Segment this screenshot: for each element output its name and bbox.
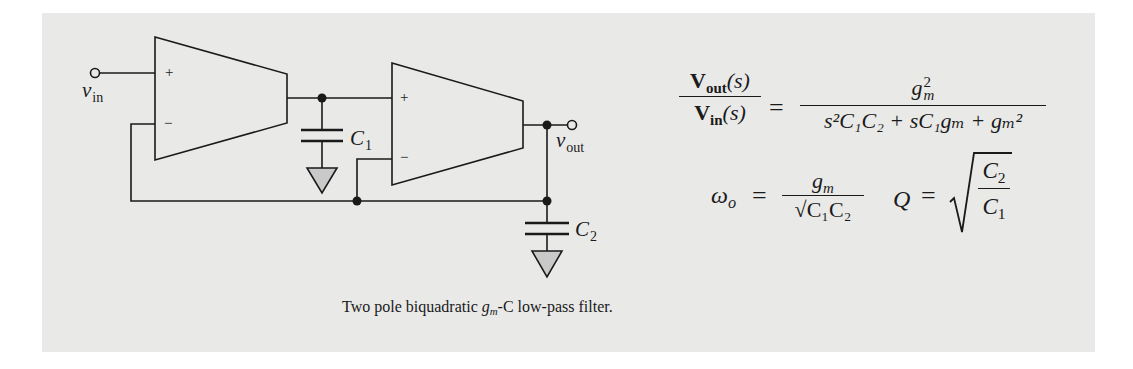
gm-sub: m bbox=[924, 89, 935, 102]
amplifier-1-icon bbox=[155, 37, 287, 160]
q-c2-symbol: C bbox=[982, 158, 997, 183]
q-c2-sub: 2 bbox=[998, 169, 1006, 186]
caption-gm-sub: m bbox=[490, 305, 498, 317]
vin-arg: (s) bbox=[723, 100, 746, 125]
transfer-rhs-fraction: g2m s²C₁C₂ + sC₁gₘ + gₘ² bbox=[800, 76, 1046, 132]
amp2-plus-sign: + bbox=[400, 90, 408, 105]
amp1-minus-sign: − bbox=[164, 116, 172, 131]
vout-V: V bbox=[690, 68, 706, 93]
omega-denominator: √C₁C₂ bbox=[795, 199, 852, 221]
input-terminal-icon bbox=[91, 69, 100, 78]
c2-subscript: 2 bbox=[590, 229, 597, 244]
vin-sub: in bbox=[710, 112, 722, 128]
transfer-equals: = bbox=[769, 93, 784, 123]
sqrt-icon: √ bbox=[795, 197, 807, 222]
vin-subscript: in bbox=[92, 90, 103, 105]
vin-symbol: v bbox=[82, 78, 91, 102]
vin-label: vin bbox=[82, 80, 103, 101]
q-fraction: C2 C1 bbox=[978, 159, 1010, 218]
lhs-denominator: Vin(s) bbox=[694, 102, 746, 124]
c2-label: C2 bbox=[575, 219, 597, 240]
amp1-plus-sign: + bbox=[165, 65, 173, 80]
fraction-bar bbox=[679, 96, 761, 97]
caption-prefix: Two pole biquadratic bbox=[342, 298, 482, 315]
fraction-bar bbox=[978, 188, 1010, 189]
amp2-minus-sign: − bbox=[400, 150, 408, 165]
fraction-bar bbox=[800, 105, 1046, 106]
vout-sub: out bbox=[706, 80, 727, 96]
omega-lhs: ωo bbox=[711, 182, 736, 209]
c1-label: C1 bbox=[350, 128, 372, 149]
q-denominator: C1 bbox=[982, 195, 1005, 218]
omega-sub: o bbox=[728, 193, 736, 212]
amplifier-2-icon bbox=[392, 63, 523, 185]
q-lhs: Q bbox=[893, 186, 910, 213]
q-numerator: C2 bbox=[982, 159, 1005, 182]
lhs-numerator: Vout(s) bbox=[690, 70, 750, 92]
q-equals: = bbox=[921, 181, 936, 211]
omega-symbol: ω bbox=[711, 182, 728, 208]
caption-suffix: -C low-pass filter. bbox=[498, 298, 613, 315]
omega-equals: = bbox=[752, 181, 767, 211]
vout-subscript: out bbox=[566, 140, 584, 155]
junction-dot bbox=[543, 197, 552, 206]
ground-1-icon bbox=[307, 168, 337, 193]
output-terminal-icon bbox=[568, 121, 577, 130]
junction-dot bbox=[353, 197, 362, 206]
vout-arg: (s) bbox=[727, 68, 750, 93]
c1-subscript: 1 bbox=[365, 138, 372, 153]
omega-radicand: C₁C₂ bbox=[807, 195, 852, 222]
gm-g: g bbox=[912, 75, 923, 100]
omega-gm-sub: m bbox=[823, 180, 834, 196]
omega-fraction: gm √C₁C₂ bbox=[782, 170, 864, 221]
figure-caption: Two pole biquadratic gm-C low-pass filte… bbox=[342, 298, 613, 316]
junction-dot bbox=[543, 121, 552, 130]
vout-symbol: v bbox=[556, 128, 565, 152]
junction-dot bbox=[318, 94, 327, 103]
omega-gm-g: g bbox=[812, 168, 823, 193]
ground-2-icon bbox=[532, 251, 562, 277]
q-c1-sub: 1 bbox=[998, 205, 1006, 222]
omega-numerator: gm bbox=[812, 170, 834, 192]
c1-symbol: C bbox=[350, 126, 364, 150]
q-c1-symbol: C bbox=[982, 194, 997, 219]
caption-gm: g bbox=[482, 298, 490, 315]
transfer-lhs-fraction: Vout(s) Vin(s) bbox=[679, 70, 761, 124]
c2-symbol: C bbox=[575, 217, 589, 241]
rhs-denominator: s²C₁C₂ + sC₁gₘ + gₘ² bbox=[824, 110, 1022, 132]
rhs-numerator: g2m bbox=[912, 76, 935, 103]
vin-V: V bbox=[694, 100, 710, 125]
vout-label: vout bbox=[556, 130, 584, 151]
